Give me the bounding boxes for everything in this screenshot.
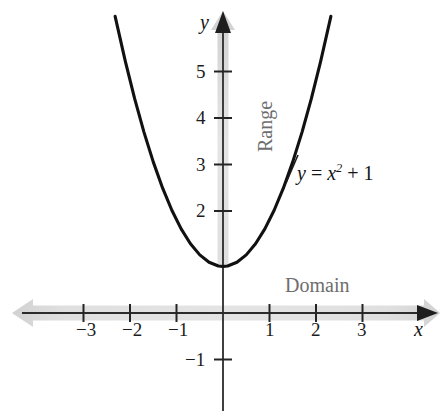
equation-lhs: y — [297, 162, 306, 184]
y-tick-label-5: 5 — [196, 62, 206, 81]
y-tick-label-4: 4 — [196, 108, 206, 127]
x-tick-label-3: 3 — [357, 320, 367, 339]
equation-label: y = x2 + 1 — [297, 163, 374, 183]
x-tick-label--1: −1 — [168, 320, 188, 339]
figure-graph-of-quadratic: −3 −2 −1 1 2 3 5 4 3 2 −1 y x Domain Ran… — [0, 0, 445, 419]
equation-base: x — [327, 162, 336, 184]
x-axis-label: x — [414, 319, 423, 339]
domain-label: Domain — [285, 275, 349, 295]
x-tick-label--3: −3 — [76, 320, 96, 339]
y-tick-label-2: 2 — [196, 201, 206, 220]
x-tick-label-2: 2 — [311, 320, 321, 339]
y-tick-label--1: −1 — [185, 350, 205, 369]
y-axis-label: y — [200, 12, 209, 32]
y-tick-label-3: 3 — [196, 155, 206, 174]
x-tick-label--2: −2 — [122, 320, 142, 339]
equation-plus: + — [347, 162, 358, 184]
equation-constant: 1 — [364, 162, 374, 184]
equation-equals: = — [311, 162, 322, 184]
range-label: Range — [255, 101, 275, 152]
x-tick-label-1: 1 — [265, 320, 275, 339]
coordinate-plane-svg — [0, 0, 445, 419]
